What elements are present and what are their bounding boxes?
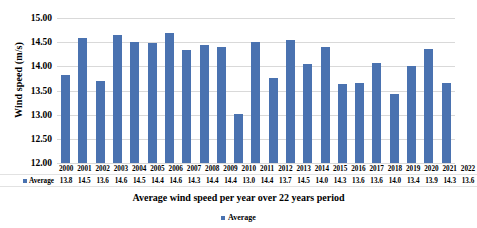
- table-value-cells: 13.814.513.614.614.514.414.614.314.414.4…: [57, 175, 477, 186]
- table-cell-2022: 13.6: [459, 175, 477, 186]
- x-axis-tick-label: 2016: [349, 163, 367, 174]
- bar-column[interactable]: [368, 18, 385, 163]
- bar-2022[interactable]: [442, 83, 451, 163]
- bar-2014[interactable]: [303, 64, 312, 163]
- bar-2000[interactable]: [61, 75, 70, 163]
- table-row: Average 13.814.513.614.614.514.414.614.3…: [0, 174, 477, 187]
- bar-column[interactable]: [403, 18, 420, 163]
- x-axis-tick-label: 2001: [75, 163, 93, 174]
- bar-2002[interactable]: [96, 81, 105, 163]
- series-marker-icon: [23, 179, 27, 183]
- bar-column[interactable]: [420, 18, 437, 163]
- y-axis-tick-label: 13.00: [31, 110, 52, 120]
- table-cell-2007: 14.3: [185, 175, 203, 186]
- table-cell-2001: 14.5: [75, 175, 93, 186]
- bar-2008[interactable]: [200, 45, 209, 163]
- bar-column[interactable]: [92, 18, 109, 163]
- bar-2015[interactable]: [321, 47, 330, 163]
- bar-2007[interactable]: [182, 50, 191, 163]
- plot-area: [57, 18, 455, 163]
- x-axis-tick-label: 2007: [185, 163, 203, 174]
- bar-column[interactable]: [230, 18, 247, 163]
- x-axis-tick-label: 2014: [313, 163, 331, 174]
- bar-2001[interactable]: [78, 38, 87, 163]
- bar-column[interactable]: [195, 18, 212, 163]
- bar-column[interactable]: [57, 18, 74, 163]
- x-axis-tick-label: 2000: [57, 163, 75, 174]
- x-axis-tick-label: 2011: [258, 163, 276, 174]
- bar-2021[interactable]: [424, 49, 433, 163]
- bar-column[interactable]: [316, 18, 333, 163]
- bar-column[interactable]: [265, 18, 282, 163]
- bar-column[interactable]: [161, 18, 178, 163]
- table-cell-2008: 14.4: [203, 175, 221, 186]
- bar-2020[interactable]: [407, 66, 416, 163]
- bar-column[interactable]: [143, 18, 160, 163]
- bar-2017[interactable]: [355, 83, 364, 163]
- bar-2010[interactable]: [234, 114, 243, 163]
- table-years-rowhead: [0, 163, 57, 174]
- x-axis-tick-label: 2003: [112, 163, 130, 174]
- x-axis-tick-label: 2010: [240, 163, 258, 174]
- table-row-years: 2000200120022003200420052006200720082009…: [0, 163, 477, 174]
- bar-2013[interactable]: [286, 40, 295, 163]
- bar-2009[interactable]: [217, 47, 226, 163]
- bar-2019[interactable]: [390, 94, 399, 163]
- table-cell-2004: 14.5: [130, 175, 148, 186]
- table-cell-2005: 14.4: [148, 175, 166, 186]
- bar-column[interactable]: [109, 18, 126, 163]
- bar-2018[interactable]: [372, 63, 381, 163]
- x-axis-title: Average wind speed per year over 22 year…: [0, 192, 477, 203]
- table-cell-2015: 14.3: [331, 175, 349, 186]
- x-axis-tick-label: 2019: [404, 163, 422, 174]
- bar-column[interactable]: [178, 18, 195, 163]
- table-cell-2000: 13.8: [57, 175, 75, 186]
- x-axis-tick-label: 2022: [459, 163, 477, 174]
- bar-column[interactable]: [213, 18, 230, 163]
- table-years-cells: 2000200120022003200420052006200720082009…: [57, 163, 477, 174]
- x-axis-tick-label: 2008: [203, 163, 221, 174]
- data-table: 2000200120022003200420052006200720082009…: [0, 163, 477, 187]
- x-axis-tick-label: 2012: [276, 163, 294, 174]
- x-axis-tick-label: 2021: [441, 163, 459, 174]
- y-axis-tick-labels: 15.0014.5014.0013.5013.0012.5012.00: [0, 18, 55, 163]
- table-cell-2017: 13.6: [368, 175, 386, 186]
- bar-chart: Wind speed (m/s) 15.0014.5014.0013.5013.…: [0, 0, 477, 228]
- x-axis-tick-label: 2006: [167, 163, 185, 174]
- y-axis-tick-label: 14.50: [31, 37, 52, 47]
- table-cell-2012: 13.7: [276, 175, 294, 186]
- table-series-rowhead: Average: [0, 175, 57, 186]
- table-cell-2002: 13.6: [94, 175, 112, 186]
- y-axis-tick-label: 12.50: [31, 134, 52, 144]
- x-axis-tick-label: 2018: [386, 163, 404, 174]
- bar-2005[interactable]: [148, 43, 157, 163]
- bar-column[interactable]: [74, 18, 91, 163]
- bar-column[interactable]: [438, 18, 455, 163]
- x-axis-tick-label: 2002: [94, 163, 112, 174]
- table-row-label: Average: [29, 177, 54, 185]
- bar-column[interactable]: [334, 18, 351, 163]
- bar-column[interactable]: [247, 18, 264, 163]
- bar-2011[interactable]: [251, 42, 260, 163]
- bar-2012[interactable]: [269, 78, 278, 163]
- bar-column[interactable]: [351, 18, 368, 163]
- bar-column[interactable]: [282, 18, 299, 163]
- table-cell-2021: 14.3: [441, 175, 459, 186]
- legend-marker-icon: [221, 216, 225, 220]
- table-cell-2020: 13.9: [422, 175, 440, 186]
- bar-column[interactable]: [386, 18, 403, 163]
- x-axis-tick-label: 2005: [148, 163, 166, 174]
- bar-2004[interactable]: [130, 42, 139, 163]
- bar-series: [57, 18, 455, 163]
- bar-column[interactable]: [299, 18, 316, 163]
- x-axis-tick-label: 2013: [294, 163, 312, 174]
- table-cell-2018: 14.0: [386, 175, 404, 186]
- y-axis-tick-label: 15.00: [31, 13, 52, 23]
- chart-legend: Average: [0, 213, 477, 222]
- bar-2003[interactable]: [113, 35, 122, 163]
- table-cell-2009: 14.4: [221, 175, 239, 186]
- bar-2016[interactable]: [338, 84, 347, 163]
- bar-column[interactable]: [126, 18, 143, 163]
- bar-2006[interactable]: [165, 33, 174, 163]
- x-axis-tick-label: 2020: [422, 163, 440, 174]
